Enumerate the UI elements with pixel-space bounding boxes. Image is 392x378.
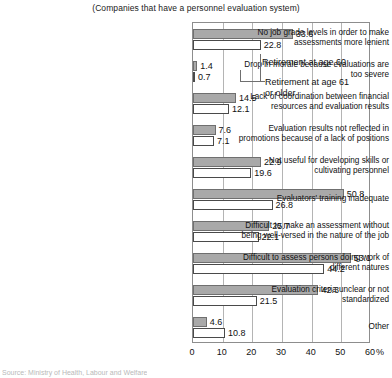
category-label: Difficult to assess persons doing work o…: [204, 253, 392, 273]
category-label-line: resources and evaluation results: [204, 102, 389, 112]
category-label-line: Lack of coordination between financial: [204, 92, 389, 102]
category-label-line: different natures: [204, 263, 389, 273]
category-label-line: Difficult to assess persons doing work o…: [204, 253, 389, 263]
x-axis-tick-label: 10: [217, 347, 227, 357]
x-axis-tick-label: 50: [335, 347, 345, 357]
category-label: Evaluation criteria unclear or notstanda…: [204, 285, 392, 305]
x-axis-unit-label: %: [376, 347, 384, 357]
category-label: Evaluators' training inadequate: [204, 194, 392, 204]
chart-subtitle: (Companies that have a personnel evaluat…: [0, 3, 392, 13]
leader-line-horizontal-2: [240, 81, 261, 82]
category-label-line: standardized: [204, 295, 389, 305]
x-axis-tick-label: 60: [365, 347, 375, 357]
category-label: Evaluation results not reflected inpromo…: [204, 124, 392, 144]
x-axis-tick-label: 30: [276, 347, 286, 357]
category-label: No job grade levels in order to makeasse…: [204, 28, 392, 48]
x-axis-tick-label: 0: [189, 347, 194, 357]
x-axis-tick-label: 20: [246, 347, 256, 357]
bar-series-b: [193, 72, 195, 82]
legend-callout-series-a: Retirement at age 60: [262, 57, 346, 68]
legend-callout-series-b-line2: or older: [265, 88, 296, 99]
category-label-line: Evaluation results not reflected in: [204, 124, 389, 134]
category-label-line: cultivating personnel: [204, 166, 389, 176]
category-label: Not useful for developing skills orculti…: [204, 156, 392, 176]
category-label-line: being well-versed in the nature of the j…: [204, 231, 389, 241]
category-label-line: promotions because of a lack of position…: [204, 134, 389, 144]
bar-series-a: [193, 61, 197, 71]
leader-line-vertical-2: [240, 70, 241, 82]
x-axis-tick-label: 40: [306, 347, 316, 357]
category-label: Lack of coordination between financialre…: [204, 92, 392, 112]
leader-line-vertical: [260, 54, 261, 82]
legend-callout-series-b: Retirement at age 61: [265, 77, 349, 88]
category-label-line: Evaluators' training inadequate: [204, 194, 389, 204]
category-label-line: Difficult to make an assessment without: [204, 221, 389, 231]
category-label-line: Not useful for developing skills or: [204, 156, 389, 166]
category-label-line: Evaluation criteria unclear or not: [204, 285, 389, 295]
category-label-line: assessments more lenient: [204, 38, 389, 48]
category-label: Other: [204, 322, 392, 332]
footnote-text: Source: Ministry of Health, Labour and W…: [2, 369, 147, 378]
category-label-line: No job grade levels in order to make: [204, 28, 389, 38]
category-label: Difficult to make an assessment withoutb…: [204, 221, 392, 241]
category-label-line: Other: [204, 322, 389, 332]
